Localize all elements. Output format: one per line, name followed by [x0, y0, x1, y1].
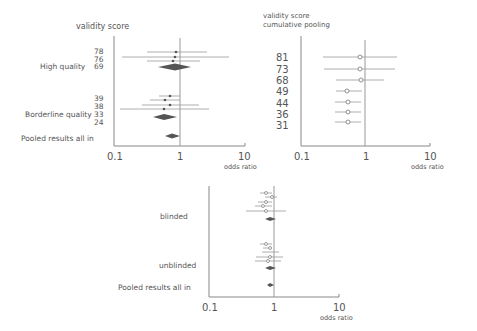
panel1-title: validity score — [76, 22, 129, 31]
group-unblinded: unblinded — [159, 261, 197, 270]
cum-score-81: 81 — [276, 52, 289, 63]
panel1-points — [163, 51, 178, 111]
score-69: 69 — [94, 62, 104, 71]
panel1-tick-label-1: 1 — [177, 151, 183, 162]
panel-blinding: 0.1 1 10 odds ratio blinded unblinded Po… — [118, 186, 353, 322]
panel2-tick-label-1: 1 — [363, 151, 369, 162]
panel-validity-score: validity score 0.1 1 10 odds ratio 78 76… — [21, 22, 257, 171]
panel3-tick-label-10: 10 — [333, 302, 346, 313]
panel2-x-label: odds ratio — [411, 163, 444, 171]
cum-score-68: 68 — [276, 75, 289, 86]
cum-score-44: 44 — [276, 98, 289, 109]
panel2-title-line2: cumulative pooling — [263, 21, 330, 29]
cum-score-73: 73 — [276, 64, 289, 75]
panel3-x-label: odds ratio — [320, 314, 353, 322]
panel2-points — [345, 55, 363, 124]
score-24: 24 — [94, 118, 104, 127]
forest-plots-figure: validity score 0.1 1 10 odds ratio 78 76… — [0, 0, 477, 331]
group-borderline-quality: Borderline quality — [25, 110, 92, 119]
panel1-tick-label-0.1: 0.1 — [107, 151, 123, 162]
panel2-tick-label-0.1: 0.1 — [294, 151, 310, 162]
panel1-ci-lines — [120, 52, 229, 109]
panel1-x-label: odds ratio — [224, 163, 257, 171]
panel3-tick-label-1: 1 — [271, 302, 277, 313]
panel-cumulative-pooling: validity score cumulative pooling 0.1 1 … — [263, 12, 444, 171]
panel2-tick-label-10: 10 — [424, 151, 437, 162]
panel3-tick-label-0.1: 0.1 — [202, 302, 218, 313]
diamond-borderline-quality — [153, 114, 177, 120]
diamond-high-quality — [158, 64, 191, 71]
cum-score-31: 31 — [276, 120, 289, 131]
cum-score-36: 36 — [276, 109, 289, 120]
diamond-pooled-all — [165, 134, 180, 139]
cum-score-49: 49 — [276, 86, 289, 97]
group-high-quality: High quality — [40, 62, 86, 71]
group-blinded: blinded — [160, 212, 188, 221]
pooled-label-p3: Pooled results all in — [118, 283, 191, 292]
diamond-pooled-all-p3 — [267, 283, 274, 287]
panel2-title-line1: validity score — [263, 12, 310, 20]
panel1-tick-label-10: 10 — [238, 151, 251, 162]
pooled-label: Pooled results all in — [21, 134, 94, 143]
